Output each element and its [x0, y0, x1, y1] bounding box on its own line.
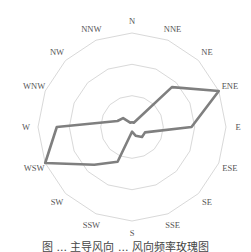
direction-labels: NNNENEENEEESESESSESSSWSWWSWWWNWNWNNW	[22, 16, 241, 238]
direction-label-ene: ENE	[222, 81, 239, 91]
direction-label-nw: NW	[50, 47, 64, 57]
direction-label-ssw: SSW	[83, 220, 100, 230]
direction-label-ne: NE	[201, 47, 212, 57]
direction-label-ese: ESE	[222, 163, 237, 173]
direction-label-wsw: WSW	[24, 163, 45, 173]
figure-caption: 图 ... 主导风向 ... 风向频率玫瑰图	[0, 238, 251, 252]
series-polygon	[45, 87, 219, 165]
grid-ring	[69, 64, 194, 189]
direction-label-w: W	[22, 122, 30, 132]
direction-label-n: N	[129, 16, 135, 26]
direction-label-sse: SSE	[165, 220, 180, 230]
direction-label-nnw: NNW	[81, 24, 101, 34]
direction-label-nne: NNE	[164, 24, 181, 34]
direction-label-sw: SW	[51, 197, 64, 207]
direction-label-wnw: WNW	[23, 81, 45, 91]
direction-label-e: E	[235, 122, 240, 132]
direction-label-s: S	[130, 228, 135, 238]
radar-chart: NNNENEENEEESESESSESSSWSWWSWWWNWNWNNW	[0, 0, 251, 252]
direction-label-se: SE	[202, 197, 212, 207]
